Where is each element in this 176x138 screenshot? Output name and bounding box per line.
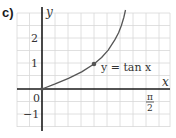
- y-tick-2: 2: [31, 32, 38, 45]
- origin-point: [40, 87, 44, 91]
- y-tick-1: 1: [31, 57, 38, 70]
- svg-text:π: π: [147, 92, 153, 102]
- curve-label: y = tan x: [100, 61, 152, 74]
- point-pi-over-4: [92, 62, 97, 67]
- svg-text:2: 2: [147, 103, 153, 113]
- x-axis-label: x: [162, 75, 169, 89]
- y-tick-neg1: −1: [23, 108, 39, 121]
- tan-curve: [42, 10, 126, 89]
- x-tick-pi-over-2: π 2: [146, 92, 154, 113]
- y-axis-label: y: [45, 5, 53, 19]
- y-tick-0: 0: [33, 92, 40, 105]
- tan-graph: y x 2 1 0 −1 y = tan x π 2: [0, 0, 176, 138]
